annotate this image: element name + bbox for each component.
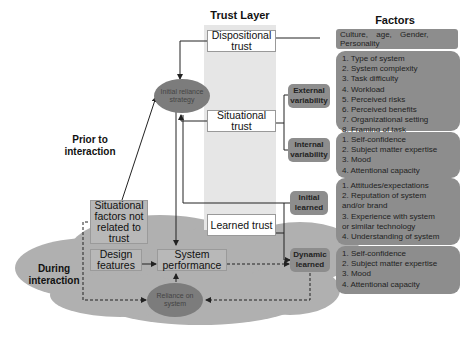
factor-item: 2. Reputation of system — [342, 191, 454, 201]
learned-trust-box: Learned trust — [207, 214, 276, 236]
external-factors-box: 1. Type of system 2. System complexity 3… — [336, 51, 460, 131]
factor-item: 7. Organizational setting — [342, 115, 454, 125]
factor-item: 1. Self-confidence — [342, 249, 454, 259]
dispositional-trust-box: Dispositional trust — [207, 30, 276, 52]
dispositional-factors-box: Culture, age, Gender, Personality — [336, 29, 458, 49]
trust-layer-heading: Trust Layer — [200, 9, 280, 21]
factor-item: 3. Task difficulty — [342, 74, 454, 84]
dynamic-learned-factors-box: 1. Self-confidence 2. Subject matter exp… — [336, 246, 460, 294]
factor-item: 3. Mood — [342, 269, 454, 279]
factor-item: 5. Perceived risks — [342, 95, 454, 105]
factor-item: or similar technology — [342, 222, 454, 232]
factor-item: 3. Experience with system — [342, 212, 454, 222]
factor-item: 4. Workload — [342, 85, 454, 95]
during-interaction-label: During interaction — [28, 263, 80, 287]
initial-reliance-strategy-ellipse: Initial reliance strategy — [154, 79, 210, 113]
factor-item: 4. Attentional capacity — [342, 166, 454, 176]
internal-variability-tag: Internal variability — [288, 138, 330, 162]
external-variability-tag: External variability — [288, 84, 330, 108]
design-features-box: Design features — [90, 249, 142, 271]
factor-item: 4. Understanding of system — [342, 232, 454, 242]
factor-item: 2. Subject matter expertise — [342, 259, 454, 269]
factor-item: 6. Perceived benefits — [342, 105, 454, 115]
factors-heading: Factors — [365, 14, 425, 26]
prior-to-interaction-label: Prior to interaction — [60, 134, 120, 158]
system-performance-box: System performance — [157, 249, 227, 271]
factor-item: 2. System complexity — [342, 64, 454, 74]
situational-factors-box: Situational factors not related to trust — [90, 200, 148, 244]
situational-trust-box: Situational trust — [207, 110, 276, 132]
initial-learned-factors-box: 1. Attitudes/expectations 2. Reputation … — [336, 178, 460, 245]
factor-item: 1. Attitudes/expectations — [342, 181, 454, 191]
initial-learned-tag: Initial learned — [290, 191, 328, 215]
internal-factors-box: 1. Self-confidence 2. Subject matter exp… — [336, 132, 460, 178]
factor-item: 1. Type of system — [342, 54, 454, 64]
reliance-on-system-ellipse: Reliance on system — [147, 283, 203, 317]
factor-item: and/or brand — [342, 201, 454, 211]
factor-item: 4. Attentional capacity — [342, 280, 454, 290]
factor-item: 3. Mood — [342, 155, 454, 165]
factor-item: 1. Self-confidence — [342, 135, 454, 145]
dynamic-learned-tag: Dynamic learned — [290, 248, 330, 272]
factor-item: 2. Subject matter expertise — [342, 145, 454, 155]
